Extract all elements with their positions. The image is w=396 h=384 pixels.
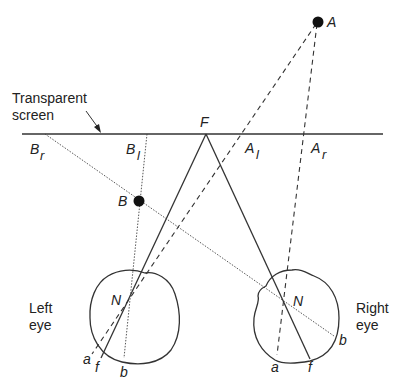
label-A: A bbox=[326, 14, 336, 30]
left-eye-fixation-line bbox=[101, 134, 206, 358]
right-eye-f: f bbox=[308, 359, 314, 375]
label-Bl: B bbox=[126, 141, 135, 157]
left-eye-label-line2: eye bbox=[29, 317, 52, 333]
label-Ar: A bbox=[310, 140, 320, 156]
label-B: B bbox=[118, 193, 127, 209]
label-Bl-sub: l bbox=[137, 148, 141, 163]
B-to-right-eye-line bbox=[45, 134, 334, 336]
left-eye-a: a bbox=[83, 351, 91, 367]
right-eye-fixation-line bbox=[206, 134, 310, 359]
label-F: F bbox=[200, 114, 210, 130]
left-eye-label-line1: Left bbox=[29, 300, 52, 316]
point-B-dot bbox=[134, 196, 145, 207]
left-eye-N: N bbox=[111, 292, 122, 308]
screen-label-line2: screen bbox=[12, 107, 54, 123]
stereo-projection-diagram: Transparent screen F A B B r B l A l A r… bbox=[0, 0, 396, 384]
label-Ar-sub: r bbox=[322, 147, 327, 162]
arrowhead-icon bbox=[94, 124, 101, 133]
A-to-left-eye-line bbox=[92, 24, 316, 354]
right-eye-N: N bbox=[293, 293, 304, 309]
B-to-left-eye-line bbox=[124, 134, 147, 358]
point-A-dot bbox=[313, 17, 324, 28]
right-eye-label-line2: eye bbox=[356, 317, 379, 333]
left-eyeball bbox=[90, 270, 180, 364]
screen-label-line1: Transparent bbox=[12, 90, 87, 106]
right-eye-a: a bbox=[271, 359, 279, 375]
label-Br: B bbox=[30, 141, 39, 157]
left-eye-f: f bbox=[95, 359, 101, 375]
label-Br-sub: r bbox=[40, 148, 45, 163]
right-eye-b: b bbox=[339, 332, 347, 348]
left-eye-b: b bbox=[120, 364, 128, 380]
label-Al: A bbox=[244, 140, 254, 156]
label-Al-sub: l bbox=[256, 147, 260, 162]
right-eyeball bbox=[254, 270, 339, 364]
right-eye-label-line1: Right bbox=[356, 300, 389, 316]
